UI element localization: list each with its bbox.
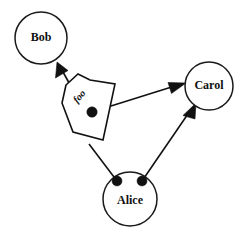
node-carol[interactable]: Carol xyxy=(185,62,233,110)
edge-alice-to-carol xyxy=(142,103,196,181)
edge-alice-to-foo-line xyxy=(89,144,117,181)
node-bob[interactable]: Bob xyxy=(15,12,67,64)
edge-alice-to-carol-line xyxy=(142,111,190,181)
node-carol-label: Carol xyxy=(194,78,224,92)
edge-alice-to-foo xyxy=(89,144,117,181)
foo-message-port-dot[interactable] xyxy=(87,107,97,117)
node-bob-label: Bob xyxy=(31,30,52,44)
diagram-svg: foo Bob Carol Alice xyxy=(0,0,248,234)
foo-message-object[interactable]: foo xyxy=(62,74,115,140)
arrowhead-to-carol-from-foo xyxy=(168,83,186,94)
node-alice-port-right-dot[interactable] xyxy=(137,176,147,186)
arrowhead-to-bob xyxy=(56,62,69,78)
node-alice[interactable]: Alice xyxy=(103,172,157,226)
diagram-canvas: foo Bob Carol Alice xyxy=(0,0,248,234)
foo-message-pentagon[interactable] xyxy=(62,74,115,140)
node-alice-port-left-dot[interactable] xyxy=(112,176,122,186)
node-alice-label: Alice xyxy=(117,193,144,207)
